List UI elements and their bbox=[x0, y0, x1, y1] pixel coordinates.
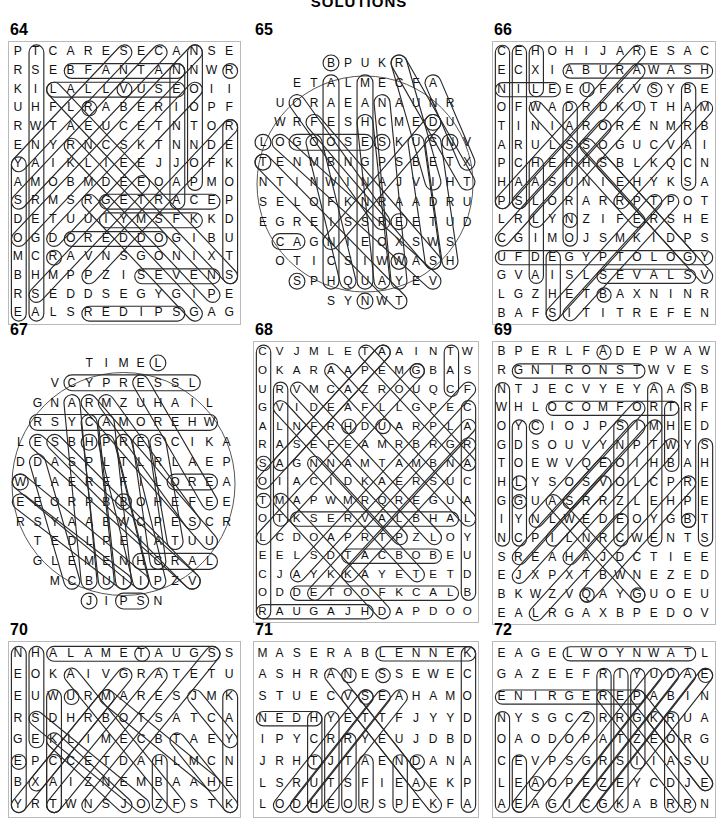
grid-letter: W bbox=[374, 251, 391, 271]
grid-letter: A bbox=[322, 527, 339, 546]
grid-letter: S bbox=[339, 772, 356, 794]
grid-letter: F bbox=[611, 398, 628, 417]
grid-letter: E bbox=[391, 642, 408, 664]
grid-letter: A bbox=[561, 117, 578, 136]
grid-letter: E bbox=[595, 454, 612, 473]
grid-letter: E bbox=[9, 685, 27, 707]
puzzle-number-67: 67 bbox=[10, 322, 239, 338]
grid-letter: A bbox=[339, 453, 356, 472]
grid-letter: T bbox=[645, 191, 662, 210]
grid-letter: E bbox=[150, 266, 168, 285]
grid-letter: H bbox=[561, 154, 578, 173]
grid-letter: O bbox=[306, 192, 323, 212]
grid-letter: A bbox=[63, 512, 80, 532]
grid-letter: U bbox=[220, 229, 238, 248]
grid-letter: O bbox=[132, 413, 149, 433]
grid-letter: I bbox=[44, 154, 62, 173]
grid-letter: G bbox=[357, 152, 374, 172]
grid-letter: D bbox=[339, 472, 356, 491]
page-title: SOLUTIONS bbox=[0, 0, 718, 10]
grid-letter: Y bbox=[459, 527, 476, 546]
grid-letter: M bbox=[132, 210, 150, 229]
grid-letter: B bbox=[150, 729, 168, 751]
grid-letter: U bbox=[442, 472, 459, 491]
grid-letter: R bbox=[150, 98, 168, 117]
grid-letter: G bbox=[561, 685, 578, 707]
grid-letter: K bbox=[645, 154, 662, 173]
grid-letter: O bbox=[544, 42, 561, 61]
grid-letter: J bbox=[288, 342, 305, 361]
grid-letter: N bbox=[27, 135, 45, 154]
grid-letter: A bbox=[662, 750, 679, 772]
grid-letter: K bbox=[510, 585, 527, 604]
grid-letter: L bbox=[184, 373, 201, 393]
grid-letter: A bbox=[288, 490, 305, 509]
grid-letter: N bbox=[220, 750, 238, 772]
grid-letter: U bbox=[9, 98, 27, 117]
grid-letter: O bbox=[561, 473, 578, 492]
grid-letter: G bbox=[185, 642, 203, 664]
grid-letter: R bbox=[561, 191, 578, 210]
grid-letter: T bbox=[203, 664, 221, 686]
grid-letter: T bbox=[132, 707, 150, 729]
grid-letter: A bbox=[62, 664, 80, 686]
grid-letter: T bbox=[97, 750, 115, 772]
grid-letter: W bbox=[425, 232, 442, 252]
grid-letter: A bbox=[98, 413, 115, 433]
grid-letter: J bbox=[527, 379, 544, 398]
grid-letter: P bbox=[679, 229, 696, 248]
grid-letter: R bbox=[628, 42, 645, 61]
grid-letter: B bbox=[662, 454, 679, 473]
puzzle-panel-71: 71MASERABLENNEKASHRANESSEWECSTUECVSEAHAM… bbox=[253, 622, 479, 818]
grid-letter: A bbox=[679, 98, 696, 117]
grid-letter: E bbox=[323, 113, 340, 133]
grid-letter: V bbox=[510, 266, 527, 285]
grid-letter: A bbox=[62, 247, 80, 266]
grid-letter: B bbox=[115, 492, 132, 512]
grid-letter: S bbox=[150, 210, 168, 229]
grid-letter: P bbox=[339, 527, 356, 546]
grid-letter: A bbox=[510, 729, 527, 751]
grid-letter: U bbox=[167, 642, 185, 664]
grid-letter: A bbox=[544, 98, 561, 117]
grid-letter: D bbox=[44, 229, 62, 248]
grid-letter: I bbox=[595, 303, 612, 322]
grid-letter: E bbox=[63, 551, 80, 571]
grid-letter: L bbox=[44, 303, 62, 322]
grid-letter: T bbox=[44, 793, 62, 815]
grid-letter: R bbox=[254, 435, 271, 454]
grid-letter: I bbox=[79, 729, 97, 751]
grid-letter: M bbox=[97, 729, 115, 751]
grid-letter: N bbox=[167, 247, 185, 266]
grid-row: NTINWINAJVIHT bbox=[253, 172, 477, 192]
grid-letters: CEHOHIJARESACECXIABURAWASHNILEEUFKVSYBEO… bbox=[493, 42, 715, 322]
grid-letter: S bbox=[373, 793, 390, 815]
grid-letter: A bbox=[323, 73, 340, 93]
grid-letter: A bbox=[44, 772, 62, 794]
grid-letter: M bbox=[595, 398, 612, 417]
grid-letter: Q bbox=[662, 154, 679, 173]
grid-letter: A bbox=[323, 93, 340, 113]
grid-letter: S bbox=[46, 413, 63, 433]
grid-letter: R bbox=[595, 685, 612, 707]
grid-letter: I bbox=[696, 135, 713, 154]
grid-letter: O bbox=[44, 173, 62, 192]
grid-letter: M bbox=[115, 413, 132, 433]
grid-letter: B bbox=[98, 512, 115, 532]
grid-letter: G bbox=[9, 729, 27, 751]
grid-letter: M bbox=[115, 353, 132, 373]
grid-letter: E bbox=[408, 793, 425, 815]
grid-row: SELOFKNRAADRU bbox=[253, 192, 477, 212]
grid-letter: A bbox=[81, 512, 98, 532]
grid-letter: J bbox=[150, 154, 168, 173]
grid-letter: E bbox=[696, 473, 713, 492]
grid-letter: B bbox=[408, 509, 425, 528]
grid-letter: S bbox=[289, 271, 306, 291]
grid-letter: K bbox=[628, 229, 645, 248]
grid-letter: E bbox=[9, 135, 27, 154]
grid-letter: K bbox=[322, 564, 339, 583]
grid-letter: E bbox=[150, 685, 168, 707]
grid-letter: C bbox=[62, 750, 80, 772]
grid-letter: E bbox=[203, 729, 221, 751]
grid-letter: H bbox=[696, 454, 713, 473]
